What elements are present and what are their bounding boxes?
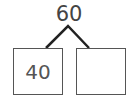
part-value-left: 40 xyxy=(14,59,62,85)
part-box-left: 40 xyxy=(13,48,63,95)
part-box-right[interactable] xyxy=(76,48,126,95)
